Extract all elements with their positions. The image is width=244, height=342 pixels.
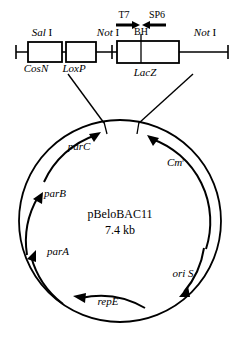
restriction-gene-sal: Sal bbox=[32, 26, 46, 38]
restriction-label-bamhi: BH bbox=[134, 26, 148, 37]
feature-label-loxp: LoxP bbox=[61, 62, 86, 74]
gene-label-repe: repE bbox=[98, 295, 119, 307]
feature-box-cosn bbox=[28, 42, 62, 62]
linear-map-group: Sal I Not I Not I CosN LoxP LacZ T7 SP6 bbox=[16, 9, 228, 78]
gene-arc-para bbox=[27, 250, 63, 304]
plasmid-name-label: pBeloBAC11 bbox=[88, 207, 153, 221]
gene-arrowhead-para bbox=[27, 250, 36, 262]
circle-junction-tick-right bbox=[137, 122, 139, 134]
gene-arrowhead-repe bbox=[73, 293, 86, 303]
restriction-gene-not-2: Not bbox=[193, 26, 211, 38]
circle-junction-tick-left bbox=[104, 122, 107, 134]
plasmid-map-figure: Sal I Not I Not I CosN LoxP LacZ T7 SP6 bbox=[0, 0, 244, 342]
feature-box-loxp bbox=[66, 42, 96, 62]
feature-label-lacz: LacZ bbox=[133, 66, 158, 78]
feature-label-cosn: CosN bbox=[24, 62, 49, 74]
restriction-numeral-not-2: I bbox=[212, 26, 216, 38]
gene-label-parb: parB bbox=[43, 187, 66, 199]
gene-label-oris: ori S bbox=[172, 267, 194, 279]
restriction-numeral-sal: I bbox=[49, 26, 53, 38]
gene-label-cmr: Cmr bbox=[167, 156, 185, 168]
gene-label-parc: parC bbox=[67, 140, 91, 152]
gene-label-cm-base: Cm bbox=[167, 156, 182, 168]
feature-box-lacz bbox=[117, 41, 179, 63]
connector-line-left bbox=[68, 74, 104, 123]
plasmid-circle-group: pBeloBAC11 7.4 kb parC Cmr parB bbox=[19, 120, 221, 322]
restriction-label-not-i-2: Not I bbox=[193, 26, 217, 38]
restriction-numeral-not-1: I bbox=[115, 26, 119, 38]
connector-line-right bbox=[139, 74, 193, 123]
gene-arc-cmr bbox=[147, 135, 210, 249]
gene-label-cm-superscript: r bbox=[182, 156, 185, 164]
plasmid-size-label: 7.4 kb bbox=[105, 223, 135, 237]
gene-arc-parb bbox=[26, 192, 43, 255]
promoter-label-sp6: SP6 bbox=[149, 9, 165, 20]
restriction-gene-not-1: Not bbox=[96, 26, 114, 38]
gene-label-para: parA bbox=[46, 245, 69, 257]
plasmid-map-svg: Sal I Not I Not I CosN LoxP LacZ T7 SP6 bbox=[0, 0, 244, 342]
restriction-label-sal-i: Sal I bbox=[32, 26, 53, 38]
promoter-label-t7: T7 bbox=[118, 9, 129, 20]
restriction-label-not-i-1: Not I bbox=[96, 26, 120, 38]
